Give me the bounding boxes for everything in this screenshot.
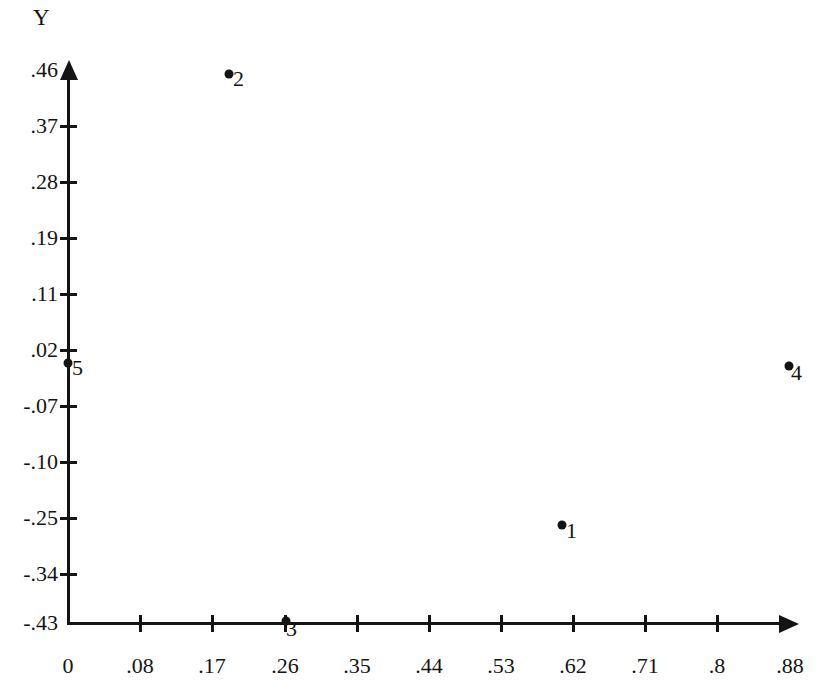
y-axis-title: Y — [33, 6, 50, 29]
x-axis-tick-label: .71 — [631, 655, 659, 677]
y-axis-arrowhead-icon — [60, 60, 78, 80]
x-axis-tick — [716, 615, 719, 632]
x-axis-tick — [211, 615, 214, 632]
y-axis-tick — [60, 461, 77, 464]
x-axis-tick — [644, 615, 647, 632]
x-axis-tick-label: .08 — [126, 655, 154, 677]
y-axis-tick-label: .28 — [31, 171, 59, 193]
y-axis-tick — [60, 293, 77, 296]
x-axis-tick — [356, 615, 359, 632]
scatter-plot-figure: Y .46.37.28.19.11.02-.07-.10-.25-.34-.43… — [0, 0, 823, 695]
x-axis-tick-label: .35 — [343, 655, 371, 677]
y-axis-tick — [60, 405, 77, 408]
x-axis-tick — [572, 615, 575, 632]
x-axis-arrowhead-icon — [779, 615, 799, 633]
y-axis-tick-label: .46 — [31, 59, 59, 81]
y-axis-tick — [60, 517, 77, 520]
data-point-label: 2 — [233, 68, 244, 90]
y-axis-tick — [60, 181, 77, 184]
y-axis-tick-label: -.43 — [23, 612, 58, 634]
y-axis-tick-label: -.07 — [23, 395, 58, 417]
y-axis-tick — [60, 237, 77, 240]
y-axis-tick — [60, 349, 77, 352]
y-axis-tick-label: -.10 — [23, 451, 58, 473]
y-axis-tick-label: -.34 — [23, 563, 58, 585]
y-axis-tick — [60, 125, 77, 128]
x-axis-tick — [139, 615, 142, 632]
x-axis-tick-label: .17 — [198, 655, 226, 677]
x-axis-tick — [428, 615, 431, 632]
data-point-label: 1 — [566, 520, 577, 542]
x-axis-tick — [500, 615, 503, 632]
y-axis-tick-label: .37 — [31, 115, 59, 137]
data-point-label: 4 — [791, 362, 802, 384]
y-axis-tick-label: .11 — [31, 283, 58, 305]
y-axis-tick — [60, 573, 77, 576]
y-axis-tick-label: .02 — [31, 339, 59, 361]
y-axis-tick-label: .19 — [31, 227, 59, 249]
data-point-label: 5 — [72, 357, 83, 379]
x-axis-tick-label: .88 — [776, 655, 804, 677]
x-axis-tick-label: 0 — [63, 655, 74, 677]
x-axis-tick-label: .26 — [271, 655, 299, 677]
x-axis-tick-label: .8 — [709, 655, 726, 677]
y-axis-tick-label: -.25 — [23, 507, 58, 529]
x-axis-tick-label: .62 — [559, 655, 587, 677]
x-axis-tick-label: .53 — [487, 655, 515, 677]
y-axis-line — [67, 70, 70, 625]
x-axis-tick-label: .44 — [415, 655, 443, 677]
data-point-label: 3 — [286, 618, 297, 640]
